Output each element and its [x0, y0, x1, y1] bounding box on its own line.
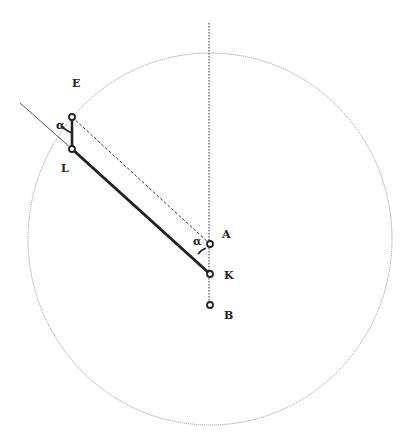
point-B [207, 302, 213, 308]
dashed-EA [72, 117, 210, 244]
point-A [207, 241, 213, 247]
label-alpha-A: α [193, 235, 202, 248]
label-E: E [72, 77, 80, 90]
rod-LK [72, 149, 210, 274]
geometry-diagram: E L A K B α α [0, 0, 406, 441]
label-B: B [224, 309, 233, 322]
label-alpha-E: α [56, 119, 65, 132]
label-A: A [221, 228, 231, 241]
label-K: K [224, 269, 234, 282]
point-L [69, 146, 75, 152]
point-K [207, 271, 213, 277]
angle-arc-A [198, 248, 206, 254]
point-E [69, 114, 75, 120]
circle [28, 53, 392, 425]
label-L: L [61, 162, 69, 175]
